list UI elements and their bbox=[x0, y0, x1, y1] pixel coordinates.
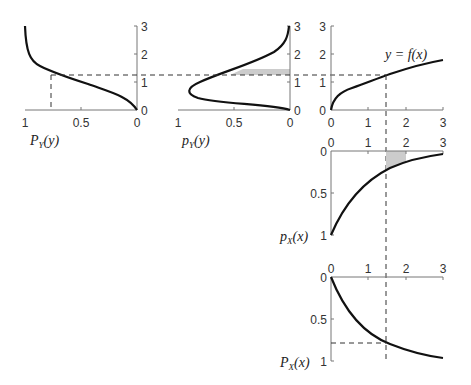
x-tick-label: 0.5 bbox=[226, 116, 243, 130]
y-tick-label: 0 bbox=[320, 271, 327, 285]
y-tick-label: 1 bbox=[320, 355, 327, 369]
ticks bbox=[331, 26, 443, 110]
pdf-x-label: pX(x) bbox=[279, 229, 308, 246]
y-tick-label: 1 bbox=[319, 76, 326, 90]
y-tick-label: 0 bbox=[294, 104, 301, 118]
y-tick-label: 0.5 bbox=[310, 187, 327, 201]
x-tick-label: 3 bbox=[440, 136, 447, 150]
ticks bbox=[331, 277, 443, 361]
x-tick-label: 1 bbox=[365, 116, 372, 130]
x-tick-label: 1 bbox=[365, 262, 372, 276]
y-tick-label: 3 bbox=[319, 20, 326, 34]
y-tick-label: 2 bbox=[294, 48, 301, 62]
panel-pdf-y: 1 0.5 0 0 1 2 3 pY(y) bbox=[175, 20, 301, 150]
x-tick-label: 1 bbox=[22, 116, 29, 130]
shaded-region bbox=[386, 151, 406, 170]
cdf-y-curve bbox=[25, 26, 137, 110]
x-tick-label: 0.5 bbox=[73, 116, 90, 130]
x-tick-label: 1 bbox=[365, 136, 372, 150]
panel-pdf-x: 0 1 2 3 0 0.5 1 pX(x) bbox=[279, 136, 447, 246]
x-tick-label: 2 bbox=[403, 116, 410, 130]
y-tick-label: 1 bbox=[141, 76, 148, 90]
pdf-y-curve bbox=[189, 26, 290, 110]
transform-label: y = f(x) bbox=[383, 47, 427, 63]
x-tick-label: 0 bbox=[287, 116, 294, 130]
change-of-variables-diagram: 1 0.5 0 0 1 2 3 PY(y) 1 0.5 0 0 1 2 3 pY… bbox=[0, 0, 471, 385]
y-tick-label: 1 bbox=[320, 229, 327, 243]
y-tick-label: 0 bbox=[319, 104, 326, 118]
x-tick-label: 2 bbox=[403, 262, 410, 276]
y-tick-label: 0 bbox=[141, 104, 148, 118]
x-tick-label: 0 bbox=[328, 262, 335, 276]
y-tick-label: 3 bbox=[141, 20, 148, 34]
shaded-region bbox=[230, 69, 290, 75]
panel-cdf-y: 1 0.5 0 0 1 2 3 PY(y) bbox=[22, 20, 148, 150]
cdf-y-label: PY(y) bbox=[29, 133, 59, 150]
y-tick-label: 0.5 bbox=[310, 313, 327, 327]
y-tick-label: 2 bbox=[141, 48, 148, 62]
y-tick-label: 3 bbox=[294, 20, 301, 34]
x-tick-label: 0 bbox=[328, 136, 335, 150]
x-tick-label: 0 bbox=[328, 116, 335, 130]
x-tick-label: 3 bbox=[440, 116, 447, 130]
panel-transform: 0 1 2 3 0 1 2 3 y = f(x) bbox=[319, 20, 446, 130]
x-tick-label: 1 bbox=[175, 116, 182, 130]
ticks bbox=[81, 26, 137, 110]
y-tick-label: 2 bbox=[319, 48, 326, 62]
x-tick-label: 3 bbox=[440, 262, 447, 276]
y-tick-label: 0 bbox=[320, 145, 327, 159]
pdf-y-label: pY(y) bbox=[181, 133, 210, 150]
cdf-x-curve bbox=[331, 277, 443, 358]
transform-curve bbox=[331, 60, 443, 110]
cdf-x-label: PX(x) bbox=[279, 355, 310, 372]
x-tick-label: 2 bbox=[403, 136, 410, 150]
x-tick-label: 0 bbox=[134, 116, 141, 130]
panel-cdf-x: 0 1 2 3 0 0.5 1 PX(x) bbox=[279, 262, 447, 372]
ticks bbox=[234, 26, 290, 110]
y-tick-label: 1 bbox=[294, 76, 301, 90]
